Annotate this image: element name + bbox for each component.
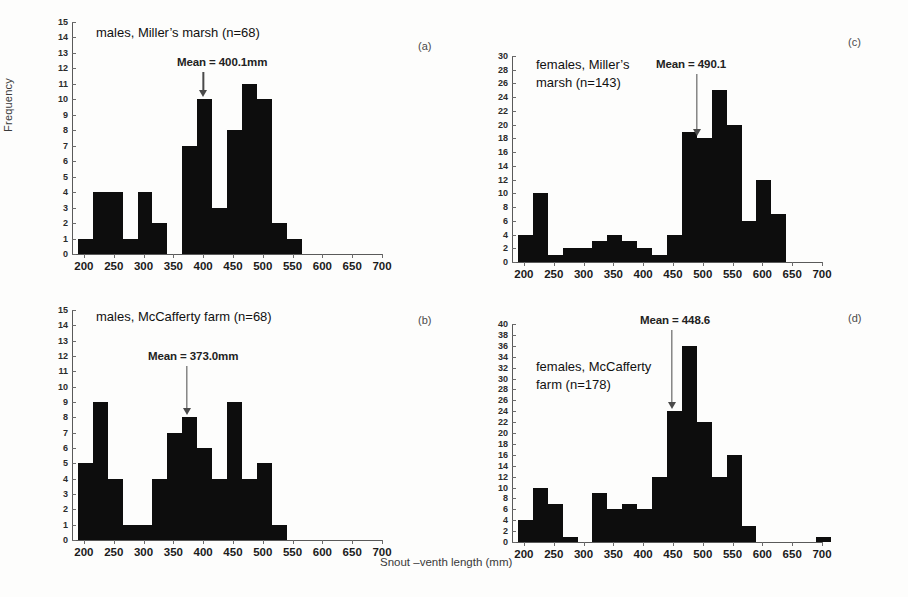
x-tick-label: 500 [253,260,272,272]
x-tick [173,254,174,258]
y-tick-label: 26 [488,395,508,405]
y-tick [512,180,516,181]
y-tick [512,235,516,236]
histogram-bar [257,463,272,540]
x-tick-label: 450 [223,260,242,272]
y-tick [512,444,516,445]
x-tick-label: 400 [194,546,213,558]
y-axis-line [72,22,73,254]
x-tick [524,262,525,266]
y-tick-label: 0 [488,537,508,547]
y-tick-label: 34 [488,352,508,362]
y-tick [512,422,516,423]
y-tick [512,400,516,401]
histogram-bar [563,537,578,542]
y-tick-label: 6 [488,504,508,514]
y-tick-label: 24 [488,406,508,416]
y-tick [72,99,76,100]
y-tick-label: 32 [488,363,508,373]
x-tick-label: 250 [104,546,123,558]
y-tick-label: 22 [488,417,508,427]
y-tick-label: 13 [48,336,68,346]
histogram-bar [727,125,742,262]
y-tick-label: 0 [488,257,508,267]
y-tick [512,97,516,98]
x-tick-label: 350 [604,268,623,280]
histogram-bar [667,235,682,262]
x-tick [643,542,644,546]
x-tick-label: 650 [343,546,362,558]
y-tick [72,341,76,342]
y-tick [512,477,516,478]
y-tick-label: 15 [48,305,68,315]
y-tick [72,177,76,178]
y-tick [72,84,76,85]
x-axis-line [72,254,382,255]
y-tick-label: 6 [48,443,68,453]
x-tick-label: 400 [634,548,653,560]
y-tick-label: 9 [48,110,68,120]
y-tick [512,488,516,489]
x-tick-label: 650 [783,548,802,560]
x-tick-label: 500 [693,268,712,280]
x-tick [114,540,115,544]
y-tick-label: 38 [488,330,508,340]
x-tick [382,540,383,544]
x-tick [382,254,383,258]
x-tick-label: 700 [372,260,391,272]
y-tick-label: 12 [48,351,68,361]
histogram-bar [697,138,712,262]
y-tick [512,411,516,412]
y-tick [72,208,76,209]
y-tick-label: 30 [488,374,508,384]
histogram-bar [607,509,622,542]
y-tick [512,83,516,84]
mean-arrow-icon [691,74,703,136]
figure-canvas: Frequency Snout –venth length (mm) (a) m… [0,0,908,597]
histogram-bar [182,417,197,540]
x-tick [762,542,763,546]
y-tick [72,53,76,54]
y-tick [512,368,516,369]
x-tick [822,542,823,546]
x-tick-label: 500 [693,548,712,560]
x-tick [233,540,234,544]
y-tick-label: 12 [48,63,68,73]
mean-arrow-icon [181,366,193,415]
y-tick-label: 5 [48,458,68,468]
x-tick [733,542,734,546]
x-tick-label: 600 [313,546,332,558]
x-tick-label: 450 [223,546,242,558]
histogram-bar [123,239,138,254]
histogram-bar [212,208,227,254]
x-tick [144,254,145,258]
y-tick-label: 10 [48,382,68,392]
y-tick [72,115,76,116]
panel-c-plot: 0246810121416182022242628302002503003504… [512,56,822,262]
x-tick [822,262,823,266]
y-tick [512,466,516,467]
x-tick [554,262,555,266]
y-tick [72,540,76,541]
x-tick [673,262,674,266]
y-tick [512,70,516,71]
y-tick [72,463,76,464]
y-tick-label: 22 [488,106,508,116]
y-tick [72,130,76,131]
x-tick [263,540,264,544]
x-tick [114,254,115,258]
y-tick [72,37,76,38]
histogram-bar [518,520,533,542]
histogram-bar [518,235,533,262]
histogram-bar [152,223,167,254]
y-tick-label: 11 [48,366,68,376]
y-tick [72,417,76,418]
y-tick-label: 26 [488,78,508,88]
y-tick [72,68,76,69]
y-tick-label: 6 [488,216,508,226]
y-tick-label: 4 [488,515,508,525]
histogram-bar [197,99,212,254]
histogram-bar [533,488,548,543]
histogram-bar [533,193,548,262]
y-tick [512,357,516,358]
